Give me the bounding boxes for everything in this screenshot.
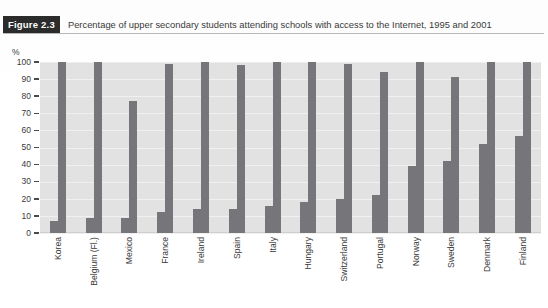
bar-2001	[451, 77, 459, 233]
y-axis-tick-label: 0	[26, 229, 31, 238]
x-axis-label-cell: Italy	[255, 235, 291, 305]
gridline	[40, 233, 541, 234]
x-axis-label-cell: Ireland	[183, 235, 219, 305]
bar-group	[326, 62, 362, 233]
x-axis-label: Switzerland	[339, 237, 349, 281]
bar-1995	[121, 218, 129, 233]
y-axis-tick-label: 70	[22, 109, 31, 118]
x-axis-label: Spain	[232, 237, 242, 259]
y-axis-tick-label: 80	[22, 92, 31, 101]
x-axis-label-cell: Hungary	[290, 235, 326, 305]
y-axis-tick-mark	[34, 61, 39, 63]
y-axis-tick-label: 40	[22, 160, 31, 169]
bar-group	[219, 62, 255, 233]
bar-1995	[265, 206, 273, 233]
bar-group	[362, 62, 398, 233]
figure-caption-bar: Figure 2.3 Percentage of upper secondary…	[3, 16, 544, 34]
y-axis-tick-label: 10	[22, 212, 31, 221]
y-axis-tick-mark	[34, 215, 39, 217]
bar-1995	[408, 166, 416, 233]
x-axis-label-cell: Finland	[505, 235, 541, 305]
x-axis-label: Finland	[518, 237, 528, 265]
y-axis-tick-mark	[34, 113, 39, 115]
y-axis-tick-mark	[34, 130, 39, 132]
x-axis-label: Norway	[411, 237, 421, 266]
x-axis-label: Sweden	[446, 237, 456, 268]
bar-groups	[40, 62, 541, 233]
x-axis-label-cell: France	[147, 235, 183, 305]
bar-group	[147, 62, 183, 233]
bar-1995	[443, 161, 451, 233]
x-axis-label-cell: Spain	[219, 235, 255, 305]
y-axis-tick-mark	[34, 181, 39, 183]
bar-group	[183, 62, 219, 233]
x-axis-label: Portugal	[375, 237, 385, 269]
figure-title: Percentage of upper secondary students a…	[60, 16, 544, 33]
bar-1995	[300, 202, 308, 233]
figure-number-tag: Figure 2.3	[3, 16, 60, 33]
bar-group	[434, 62, 470, 233]
x-axis-label: Ireland	[196, 237, 206, 263]
bar-1995	[372, 195, 380, 233]
x-axis-label-cell: Sweden	[434, 235, 470, 305]
bar-2001	[273, 62, 281, 233]
bar-1995	[86, 218, 94, 233]
y-axis-unit-label: %	[12, 47, 20, 57]
y-axis-tick-mark	[34, 78, 39, 80]
x-axis-label-cell: Korea	[40, 235, 76, 305]
x-axis-label: Korea	[53, 237, 63, 260]
bar-group	[112, 62, 148, 233]
bar-1995	[50, 221, 58, 233]
bar-1995	[157, 212, 165, 233]
x-axis-label-cell: Denmark	[469, 235, 505, 305]
figure-container: Figure 2.3 Percentage of upper secondary…	[0, 0, 548, 308]
bar-group	[76, 62, 112, 233]
x-axis-label-cell: Portugal	[362, 235, 398, 305]
x-axis-label: Italy	[268, 237, 278, 253]
bar-group	[255, 62, 291, 233]
y-axis-tick-label: 90	[22, 75, 31, 84]
bar-group	[40, 62, 76, 233]
bar-2001	[344, 64, 352, 233]
bar-2001	[58, 62, 66, 233]
y-axis-tick-mark	[34, 95, 39, 97]
y-axis-tick-mark	[34, 198, 39, 200]
bar-1995	[515, 136, 523, 233]
bar-2001	[487, 62, 495, 233]
bar-1995	[193, 209, 201, 233]
bar-2001	[416, 62, 424, 233]
bar-group	[290, 62, 326, 233]
x-axis-label: France	[160, 237, 170, 264]
x-axis-label-cell: Belgium (Fl.)	[76, 235, 112, 305]
bar-1995	[479, 144, 487, 233]
y-axis-tick-label: 20	[22, 195, 31, 204]
bar-group	[469, 62, 505, 233]
bar-2001	[165, 64, 173, 233]
bar-2001	[523, 62, 531, 233]
y-axis-tick-mark	[34, 147, 39, 149]
x-axis-label-cell: Norway	[398, 235, 434, 305]
bar-2001	[129, 101, 137, 233]
x-axis-label: Denmark	[482, 237, 492, 272]
x-axis-label-cell: Mexico	[112, 235, 148, 305]
x-axis-label-cell: Switzerland	[326, 235, 362, 305]
y-axis-tick-mark	[34, 164, 39, 166]
bar-group	[505, 62, 541, 233]
x-axis-label: Belgium (Fl.)	[89, 237, 99, 286]
y-axis: % 1009080706050403020100	[0, 55, 40, 240]
bar-1995	[229, 209, 237, 233]
bar-group	[398, 62, 434, 233]
plot-area	[40, 62, 541, 233]
x-axis-label: Mexico	[124, 237, 134, 264]
bar-2001	[237, 65, 245, 233]
bar-2001	[308, 62, 316, 233]
x-axis-label: Hungary	[303, 237, 313, 269]
y-axis-tick-label: 50	[22, 143, 31, 152]
bar-2001	[380, 72, 388, 233]
y-axis-tick-label: 30	[22, 177, 31, 186]
y-axis-tick-label: 100	[17, 58, 31, 67]
y-axis-tick-mark	[34, 232, 39, 234]
bar-1995	[336, 199, 344, 233]
bar-2001	[94, 62, 102, 233]
x-axis-labels: KoreaBelgium (Fl.)MexicoFranceIrelandSpa…	[40, 235, 541, 305]
